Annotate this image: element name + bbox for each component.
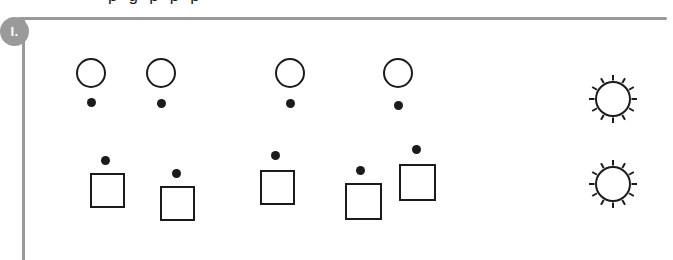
sun-icon bbox=[584, 70, 642, 128]
section-rule-horizontal bbox=[18, 17, 667, 20]
dot-marker bbox=[157, 99, 166, 108]
square-shape bbox=[345, 183, 382, 220]
dot-marker bbox=[356, 166, 365, 175]
square-shape bbox=[160, 186, 195, 221]
dot-marker bbox=[394, 101, 403, 110]
dot-marker bbox=[172, 169, 181, 178]
worksheet-page: p g p p p I. bbox=[0, 0, 673, 260]
circle-shape bbox=[383, 58, 413, 88]
circle-shape bbox=[146, 58, 176, 88]
clipped-header-strip: p g p p p bbox=[0, 0, 673, 13]
square-shape bbox=[260, 170, 295, 205]
section-rule-vertical bbox=[22, 19, 25, 260]
circle-shape bbox=[275, 58, 305, 88]
sun-icon bbox=[584, 155, 642, 213]
circle-shape bbox=[76, 58, 106, 88]
square-shape bbox=[399, 164, 436, 201]
square-shape bbox=[90, 173, 125, 208]
dot-marker bbox=[271, 151, 280, 160]
dot-marker bbox=[412, 145, 421, 154]
dot-marker bbox=[286, 99, 295, 108]
dot-marker bbox=[87, 98, 96, 107]
clipped-header-text: p g p p p bbox=[108, 0, 203, 6]
section-number-badge: I. bbox=[0, 17, 29, 46]
dot-marker bbox=[101, 156, 110, 165]
